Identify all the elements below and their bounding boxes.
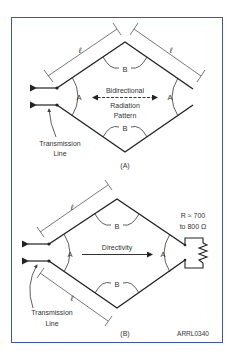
angle-label-a: A (76, 93, 81, 102)
angle-label-a: A (160, 250, 165, 259)
panel-caption: (A) (120, 162, 129, 170)
transmission-line-label: Transmission (39, 140, 80, 147)
panel-b: R ≈ 700 to 800 Ω ℓ ℓ (28, 180, 209, 338)
pattern-label-line1: Bidirectional (106, 87, 145, 94)
panel-caption: (B) (120, 330, 129, 338)
figure-credit: ARRL0340 (177, 330, 209, 337)
resistance-label: to 800 Ω (180, 223, 207, 230)
dimension-upper-left-b (37, 180, 112, 237)
angle-label-a: A (167, 93, 172, 102)
pattern-label-line2: Radiation (110, 102, 140, 109)
resistance-label: R ≈ 700 (181, 212, 206, 219)
diagram-canvas: ℓ ℓ A A B B Bidirectional Radiation Patt… (0, 0, 232, 362)
length-label: ℓ (70, 294, 74, 303)
length-label: ℓ (78, 46, 82, 55)
directivity-label: Directivity (102, 244, 133, 252)
length-label: ℓ (169, 46, 173, 55)
transmission-line-label: Line (53, 150, 66, 157)
angle-label-b: B (122, 124, 127, 133)
panel-a: ℓ ℓ A A B B Bidirectional Radiation Patt… (36, 23, 205, 170)
transmission-line-label: Transmission (31, 309, 72, 316)
pattern-label-line3: Pattern (114, 112, 137, 119)
rhombic-antenna-diagram: ℓ ℓ A A B B Bidirectional Radiation Patt… (0, 0, 232, 362)
angle-label-b: B (122, 65, 127, 74)
termination-resistor-icon (185, 238, 207, 268)
angle-label-b: B (114, 222, 119, 231)
terminal-dot-icon (184, 244, 187, 247)
length-label: ℓ (70, 203, 74, 212)
angle-label-a: A (67, 250, 72, 259)
angle-label-b: B (114, 280, 119, 289)
callout-arrow-icon (49, 109, 56, 137)
terminal-dot-icon (184, 259, 187, 262)
transmission-line-label: Line (45, 320, 58, 327)
callout-arrow-icon (30, 265, 37, 308)
